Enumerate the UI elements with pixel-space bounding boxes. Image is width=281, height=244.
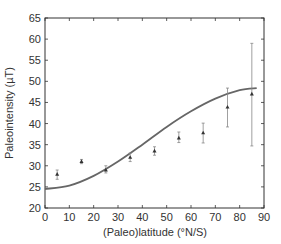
- x-tick-label: 90: [258, 211, 270, 223]
- x-tick-label: 20: [88, 211, 100, 223]
- data-point: [250, 43, 254, 146]
- data-point: [80, 159, 84, 163]
- y-tick-label: 35: [29, 139, 41, 151]
- y-tick-label: 65: [29, 12, 41, 24]
- x-tick-label: 40: [136, 211, 148, 223]
- paleointensity-chart: 0102030405060708090 20253035404550556065…: [0, 0, 281, 244]
- data-point: [177, 132, 181, 143]
- y-axis-label: Paleointensity (µT): [3, 67, 15, 159]
- data-point: [201, 123, 205, 143]
- x-tick-label: 0: [42, 211, 48, 223]
- x-tick-label: 70: [209, 211, 221, 223]
- plot-area: [45, 18, 264, 208]
- data-point: [55, 170, 59, 179]
- y-tick-label: 30: [29, 160, 41, 172]
- x-tick-label: 50: [161, 211, 173, 223]
- y-tick-label: 55: [29, 54, 41, 66]
- y-tick-label: 45: [29, 96, 41, 108]
- x-axis-label: (Paleo)latitude (°N/S): [103, 226, 207, 238]
- y-tick-label: 50: [29, 75, 41, 87]
- x-tick-label: 60: [185, 211, 197, 223]
- data-points: [55, 43, 254, 179]
- model-curve: [45, 88, 257, 189]
- y-tick-label: 20: [29, 202, 41, 214]
- x-axis-ticks: 0102030405060708090: [42, 18, 270, 223]
- data-point: [153, 147, 157, 155]
- y-tick-label: 25: [29, 181, 41, 193]
- x-tick-label: 10: [63, 211, 75, 223]
- x-tick-label: 80: [234, 211, 246, 223]
- x-tick-label: 30: [112, 211, 124, 223]
- y-tick-label: 60: [29, 33, 41, 45]
- y-tick-label: 40: [29, 118, 41, 130]
- y-axis-ticks: 20253035404550556065: [29, 12, 264, 214]
